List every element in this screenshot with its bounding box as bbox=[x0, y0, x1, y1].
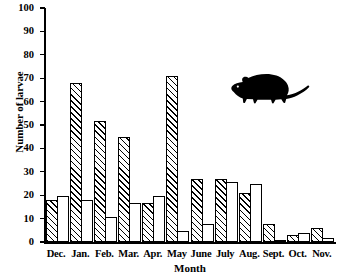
bar-apr-hatched bbox=[142, 203, 154, 243]
x-tick-label-june: June bbox=[189, 247, 213, 263]
x-axis-tick-labels: Dec.Jan.Feb.Mar.Apr.MayJuneJulyAug.Sept.… bbox=[44, 247, 336, 263]
x-tick-label-apr: Apr. bbox=[141, 247, 165, 263]
bar-feb-white bbox=[105, 217, 117, 243]
bar-group-june bbox=[191, 8, 215, 242]
bar-july-hatched bbox=[215, 179, 227, 242]
y-tick-label-90: 90 bbox=[12, 26, 34, 37]
y-tick-label-10: 10 bbox=[12, 214, 34, 225]
bar-oct-white bbox=[298, 233, 310, 242]
x-tick-label-feb: Feb. bbox=[92, 247, 116, 263]
bar-june-hatched bbox=[191, 179, 203, 242]
bar-jan-hatched bbox=[70, 83, 82, 242]
bar-group-dec bbox=[46, 8, 70, 242]
x-tick-label-oct: Oct. bbox=[286, 247, 310, 263]
bar-nov-white bbox=[322, 238, 334, 243]
y-tick-mark-70 bbox=[40, 78, 45, 79]
rodent-silhouette-icon bbox=[228, 66, 310, 108]
y-tick-label-40: 40 bbox=[12, 143, 34, 154]
bar-group-mar bbox=[118, 8, 142, 242]
x-axis-title: Month bbox=[44, 262, 336, 274]
bar-dec-white bbox=[57, 196, 69, 243]
y-tick-mark-60 bbox=[40, 101, 45, 102]
bar-apr-white bbox=[153, 196, 165, 243]
y-tick-mark-90 bbox=[40, 31, 45, 32]
bar-group-july bbox=[215, 8, 239, 242]
y-tick-label-70: 70 bbox=[12, 73, 34, 84]
y-tick-mark-80 bbox=[40, 54, 45, 55]
x-tick-label-july: July bbox=[213, 247, 237, 263]
x-tick-label-aug: Aug. bbox=[237, 247, 261, 263]
bar-nov-hatched bbox=[311, 228, 323, 242]
bar-group-nov bbox=[311, 8, 335, 242]
x-tick-label-nov: Nov. bbox=[310, 247, 334, 263]
bar-group-aug bbox=[239, 8, 263, 242]
y-tick-label-60: 60 bbox=[12, 97, 34, 108]
bar-group-oct bbox=[287, 8, 311, 242]
bar-group-jan bbox=[70, 8, 94, 242]
y-tick-mark-50 bbox=[40, 124, 45, 125]
y-tick-label-20: 20 bbox=[12, 190, 34, 201]
plot-area bbox=[44, 8, 336, 244]
bar-series-container bbox=[46, 8, 336, 242]
y-tick-mark-10 bbox=[40, 218, 45, 219]
bar-july-white bbox=[226, 182, 238, 243]
x-tick-label-sept: Sept. bbox=[261, 247, 285, 263]
bar-group-sept bbox=[263, 8, 287, 242]
y-axis-tick-labels: 0102030405060708090100 bbox=[8, 0, 34, 278]
bar-dec-hatched bbox=[46, 200, 58, 242]
x-tick-label-jan: Jan. bbox=[68, 247, 92, 263]
y-tick-mark-40 bbox=[40, 148, 45, 149]
y-tick-label-50: 50 bbox=[12, 120, 34, 131]
bar-sept-white bbox=[274, 240, 286, 242]
y-tick-label-100: 100 bbox=[12, 3, 34, 14]
bar-may-white bbox=[177, 231, 189, 243]
bar-group-may bbox=[166, 8, 190, 242]
y-tick-mark-100 bbox=[40, 7, 45, 8]
bar-mar-hatched bbox=[118, 137, 130, 242]
bar-may-hatched bbox=[166, 76, 178, 242]
y-tick-mark-0 bbox=[40, 241, 45, 242]
x-tick-label-dec: Dec. bbox=[44, 247, 68, 263]
bar-jan-white bbox=[81, 200, 93, 242]
chart-figure: Number of larvae 0102030405060708090100 … bbox=[0, 0, 344, 278]
x-axis-line bbox=[44, 242, 336, 244]
bar-group-feb bbox=[94, 8, 118, 242]
y-tick-label-0: 0 bbox=[12, 237, 34, 248]
bar-aug-hatched bbox=[239, 193, 251, 242]
bar-oct-hatched bbox=[287, 235, 299, 242]
y-tick-label-30: 30 bbox=[12, 167, 34, 178]
bar-mar-white bbox=[129, 203, 141, 243]
bar-feb-hatched bbox=[94, 121, 106, 243]
bar-june-white bbox=[202, 224, 214, 243]
y-tick-mark-30 bbox=[40, 171, 45, 172]
bar-sept-hatched bbox=[263, 224, 275, 243]
y-tick-label-80: 80 bbox=[12, 50, 34, 61]
bar-aug-white bbox=[250, 184, 262, 243]
y-tick-mark-20 bbox=[40, 195, 45, 196]
bar-group-apr bbox=[142, 8, 166, 242]
x-tick-label-may: May bbox=[165, 247, 189, 263]
x-tick-label-mar: Mar. bbox=[116, 247, 140, 263]
